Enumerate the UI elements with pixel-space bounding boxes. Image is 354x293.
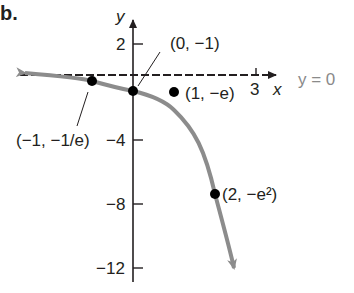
- x-tick-label-3: 3: [250, 80, 259, 99]
- point-label-2: (2, −e²): [222, 185, 277, 204]
- point-label-1: (1, −e): [185, 84, 235, 103]
- labels-layer: b. y x 2 −4 −8 −12 3 y = 0 (0, −1) (1, −…: [0, 0, 354, 293]
- y-axis-label: y: [115, 7, 126, 26]
- x-axis-label: x: [272, 80, 282, 99]
- point-label-0: (0, −1): [170, 34, 220, 53]
- y-tick-label-neg8: −8: [106, 195, 125, 214]
- point-label-neg1: (−1, −1/e): [16, 131, 90, 150]
- y-tick-label-neg12: −12: [96, 259, 125, 278]
- part-label: b.: [0, 2, 18, 24]
- y-tick-label-neg4: −4: [106, 131, 125, 150]
- y-tick-label-2: 2: [116, 35, 125, 54]
- asymptote-label: y = 0: [298, 70, 335, 89]
